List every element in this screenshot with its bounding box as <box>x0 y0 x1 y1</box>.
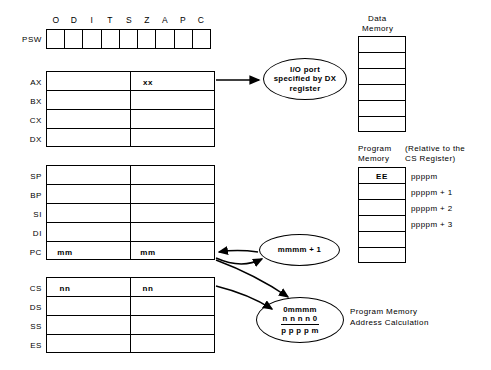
register-row-ss[interactable] <box>47 316 214 335</box>
address-calc-caption-line1: Program Memory <box>350 307 417 317</box>
io-port-line1: I/O port <box>274 65 337 75</box>
io-port-line3: register <box>274 84 337 94</box>
register-label-ds: DS <box>16 303 42 313</box>
register-label-bp: BP <box>16 191 42 201</box>
program-memory-address-1: ppppm + 1 <box>411 188 453 198</box>
psw-cell-2[interactable] <box>83 30 101 48</box>
register-row-bx[interactable] <box>47 91 214 110</box>
psw-flag-name-8: C <box>192 15 210 25</box>
program-memory-cell-5[interactable] <box>359 248 405 263</box>
program-memory-cell-1[interactable] <box>359 184 405 200</box>
psw-flag-name-5: Z <box>138 15 156 25</box>
data-memory-cell-3[interactable] <box>359 85 405 101</box>
program-memory-title-line2: Memory <box>358 154 389 164</box>
program-memory-cell-4[interactable] <box>359 232 405 248</box>
io-port-line2: specified by DX <box>274 74 337 84</box>
register-value-cs-high: nn <box>49 284 81 293</box>
pc-increment-line1: mmmm + 1 <box>278 245 321 255</box>
register-row-di[interactable] <box>47 223 214 242</box>
program-memory-address-0: ppppm <box>411 172 437 182</box>
register-value-cs-low: nn <box>118 284 178 293</box>
data-memory-cell-2[interactable] <box>359 69 405 85</box>
io-port-ellipse: I/O port specified by DX register <box>263 58 347 100</box>
register-label-sp: SP <box>16 172 42 182</box>
program-memory-relative-line1: (Relative to the <box>405 144 465 154</box>
arrow-increment-to-pc <box>219 251 258 253</box>
register-row-cx[interactable] <box>47 110 214 129</box>
address-calc-line2: n n n n 0 <box>281 314 318 324</box>
register-value-ax-low: xx <box>118 78 178 87</box>
psw-cell-1[interactable] <box>65 30 83 48</box>
program-memory-value-ee: EE <box>358 172 406 181</box>
data-memory-cell-0[interactable] <box>359 37 405 53</box>
program-memory-cell-2[interactable] <box>359 200 405 216</box>
data-memory-cell-1[interactable] <box>359 53 405 69</box>
psw-cell-7[interactable] <box>175 30 193 48</box>
arrow-pc-to-address-calc <box>216 260 288 297</box>
register-label-ax: AX <box>16 78 42 88</box>
program-memory-address-2: ppppm + 2 <box>411 204 453 214</box>
register-row-sp[interactable] <box>47 166 214 185</box>
register-label-bx: BX <box>16 97 42 107</box>
pointer-register-block <box>46 165 215 260</box>
program-memory-title-line1: Program <box>358 144 391 154</box>
register-row-dx[interactable] <box>47 129 214 147</box>
register-value-pc-low: mm <box>118 248 178 257</box>
register-row-si[interactable] <box>47 204 214 223</box>
psw-flag-name-4: S <box>120 15 138 25</box>
program-memory-relative-line2: CS Register) <box>405 154 456 164</box>
register-label-ss: SS <box>16 322 42 332</box>
register-label-di: DI <box>16 229 42 239</box>
program-memory-address-3: ppppm + 3 <box>411 220 453 230</box>
program-memory-cell-3[interactable] <box>359 216 405 232</box>
pc-increment-ellipse: mmmm + 1 <box>259 234 340 266</box>
psw-flag-name-0: O <box>47 15 65 25</box>
register-label-dx: DX <box>16 135 42 145</box>
data-memory-title-line2: Memory <box>362 24 393 34</box>
register-row-es[interactable] <box>47 335 214 353</box>
data-memory-cell-4[interactable] <box>359 101 405 117</box>
data-memory-title-line1: Data <box>368 14 387 24</box>
psw-flag-name-7: P <box>174 15 192 25</box>
register-label-cs: CS <box>16 284 42 294</box>
data-memory-block <box>358 36 406 132</box>
psw-cell-5[interactable] <box>138 30 156 48</box>
arrow-pc-to-increment <box>216 258 262 264</box>
register-value-pc-high: mm <box>49 248 81 257</box>
data-memory-cell-5[interactable] <box>359 117 405 132</box>
register-row-ds[interactable] <box>47 297 214 316</box>
address-calc-caption-line2: Address Calculation <box>350 318 429 328</box>
register-label-es: ES <box>16 341 42 351</box>
address-calc-line1: 0mmmm <box>281 305 318 315</box>
program-memory-block <box>358 167 406 263</box>
psw-cell-4[interactable] <box>120 30 138 48</box>
register-label-si: SI <box>16 210 42 220</box>
psw-cell-8[interactable] <box>193 30 210 48</box>
psw-cell-0[interactable] <box>47 30 65 48</box>
register-label-pc: PC <box>16 248 42 258</box>
psw-register-box[interactable] <box>46 29 211 49</box>
psw-label: PSW <box>16 35 42 45</box>
psw-flag-name-3: T <box>101 15 119 25</box>
register-label-cx: CX <box>16 116 42 126</box>
psw-flag-name-1: D <box>65 15 83 25</box>
diagram-canvas: O D I T S Z A P C PSW AX BX CX DX xx SP … <box>0 0 491 370</box>
address-calc-line3: p p p p m <box>281 324 318 335</box>
address-calc-ellipse: 0mmmm n n n n 0 p p p p m <box>256 297 344 343</box>
psw-flag-name-2: I <box>83 15 101 25</box>
register-row-bp[interactable] <box>47 185 214 204</box>
psw-cell-6[interactable] <box>156 30 174 48</box>
psw-cell-3[interactable] <box>102 30 120 48</box>
psw-flag-name-6: A <box>156 15 174 25</box>
